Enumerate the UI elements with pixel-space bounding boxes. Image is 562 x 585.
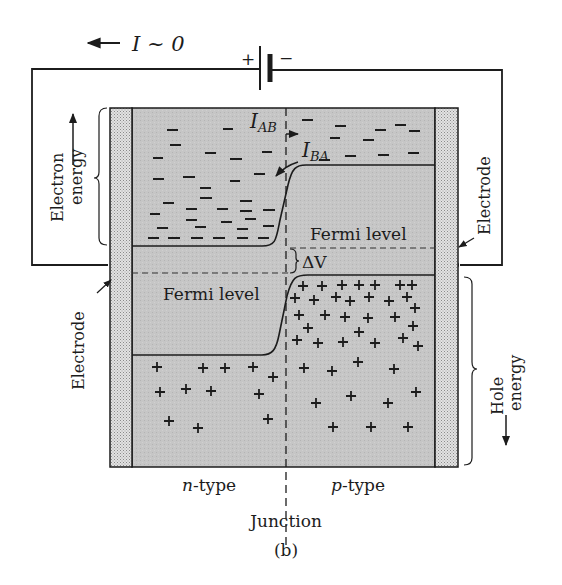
fermi-level-left-label: Fermi level bbox=[163, 284, 260, 304]
pn-junction-diagram: I ~ 0 + − ΔV Fermi level Fermi level IAB… bbox=[0, 0, 562, 585]
fermi-level-right-label: Fermi level bbox=[310, 224, 407, 244]
hole-energy-label: Hole energy bbox=[464, 277, 525, 465]
electrode-right-pointer-icon bbox=[459, 238, 474, 247]
electrode-left-label-group: Electrode bbox=[69, 280, 111, 390]
electrode-left-pointer-icon bbox=[97, 280, 111, 293]
svg-text:Electron: Electron bbox=[48, 153, 67, 222]
svg-text:Hole: Hole bbox=[488, 377, 507, 415]
current-indicator: I ~ 0 bbox=[88, 32, 185, 56]
electrode-left-label: Electrode bbox=[69, 311, 88, 390]
electrode-left bbox=[110, 108, 132, 467]
current-label: I ~ 0 bbox=[131, 32, 185, 56]
delta-v-label: ΔV bbox=[302, 252, 327, 272]
electrode-right-label-group: Electrode bbox=[459, 156, 494, 247]
battery-minus-label: − bbox=[279, 48, 293, 68]
electrode-right bbox=[435, 108, 458, 467]
p-type-label: p-type bbox=[331, 475, 385, 495]
electron-energy-brace bbox=[94, 108, 107, 245]
svg-text:energy: energy bbox=[506, 355, 525, 411]
svg-text:energy: energy bbox=[67, 149, 86, 205]
n-type-label: n-type bbox=[182, 475, 236, 495]
hole-energy-brace bbox=[464, 277, 477, 465]
electron-energy-label: Electron energy bbox=[48, 108, 107, 245]
electrode-right-label: Electrode bbox=[475, 156, 494, 235]
junction-label: Junction bbox=[248, 511, 322, 531]
figure-caption: (b) bbox=[274, 540, 298, 560]
battery-plus-label: + bbox=[241, 49, 255, 69]
battery-icon: + − bbox=[241, 46, 293, 90]
